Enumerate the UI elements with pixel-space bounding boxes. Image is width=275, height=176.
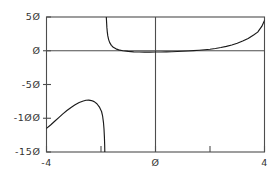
y-axis-tick-label: -1ØØ [14,113,41,123]
tick-marks [43,17,265,152]
x-axis-tick-label: 4 [245,158,275,168]
chart-container: 5ØØ-5Ø-1ØØ-15Ø-4Ø4 [0,0,274,176]
y-axis-tick-label: 5Ø [26,12,41,22]
x-axis-tick-label: Ø [136,158,176,168]
axis-lines [47,17,265,152]
chart-plot-area [0,0,274,176]
data-curve-left-branch [47,100,105,152]
x-axis-tick-label: -4 [27,158,67,168]
y-axis-tick-label: -15Ø [15,147,40,157]
y-axis-tick-label: -5Ø [22,80,41,90]
data-curve-right-branch [106,17,264,52]
y-axis-tick-label: Ø [32,46,40,56]
